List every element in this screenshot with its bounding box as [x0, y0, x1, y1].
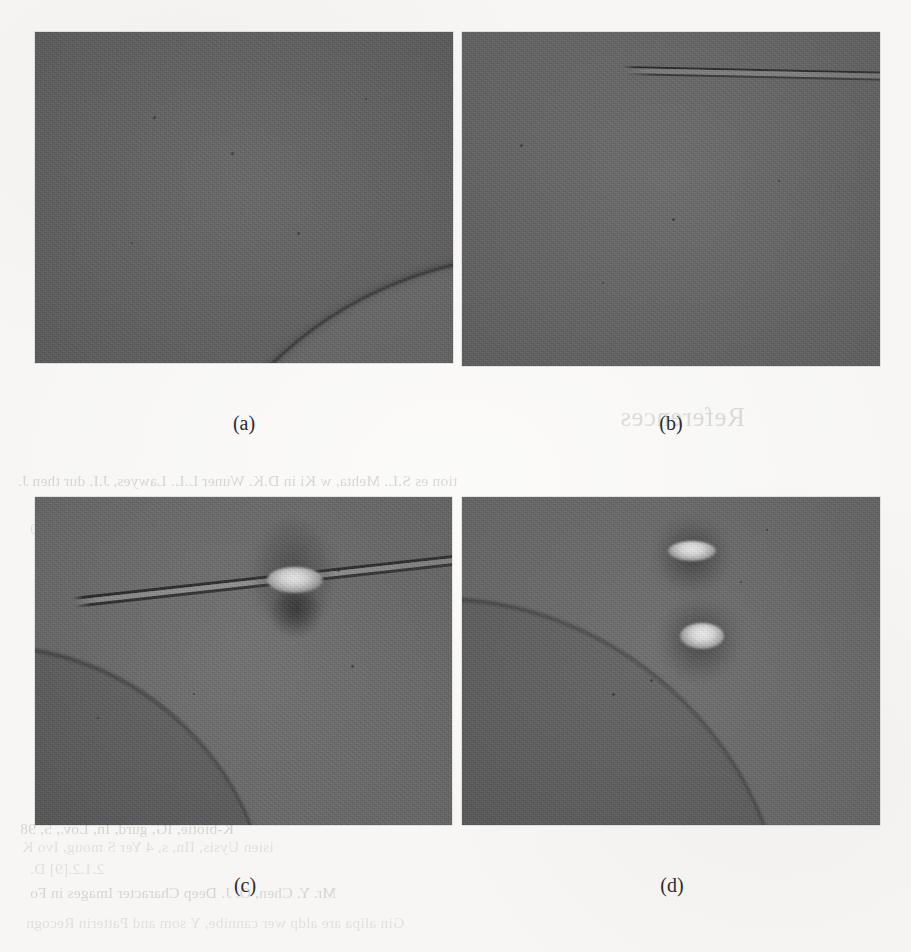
panel-b-caption: (b): [611, 412, 731, 435]
panel-a-caption: (a): [184, 412, 304, 435]
panel-d-caption: (d): [612, 874, 732, 897]
panel-c-photograph: [35, 497, 452, 825]
panel-d: [462, 497, 880, 825]
panel-c-caption: (c): [185, 874, 305, 897]
figure-2x2-panel-grid: (a) (b): [0, 0, 911, 952]
droplet-upper-d: [654, 517, 730, 595]
droplet-highlight-c: [267, 567, 323, 593]
scanned-page: References tion es S.L. Mehta, w Ki in D…: [0, 0, 911, 952]
panel-a: [35, 32, 453, 363]
panel-d-photograph: [462, 497, 880, 825]
panel-c: [35, 497, 452, 825]
droplet-shadow-c: [271, 593, 321, 637]
panel-b: [462, 32, 880, 366]
panel-a-photograph: [35, 32, 453, 363]
droplet-lower-d: [658, 597, 740, 683]
panel-b-photograph: [462, 32, 880, 366]
